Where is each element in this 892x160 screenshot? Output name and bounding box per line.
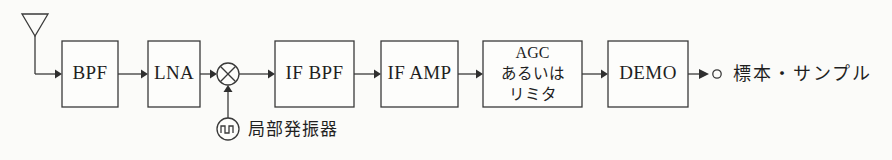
- block-if-bpf-label: IF BPF: [286, 62, 344, 83]
- wire-if-bpf-to-if-amp: [354, 70, 381, 79]
- block-agc-label-line1: AGC: [516, 44, 550, 61]
- block-if-amp-label: IF AMP: [387, 62, 451, 83]
- wire-bpf-to-lna: [118, 70, 148, 79]
- local-oscillator-label: 局部発振器: [248, 119, 338, 139]
- wire-mixer-to-if-bpf: [239, 70, 275, 79]
- block-lna-label: LNA: [154, 62, 194, 83]
- block-agc-label-line3: リミタ: [509, 86, 557, 104]
- mixer-symbol[interactable]: [217, 63, 239, 85]
- block-lna[interactable]: LNA: [148, 41, 200, 107]
- wire-if-amp-to-agc: [458, 70, 483, 79]
- block-demo[interactable]: DEMO: [608, 41, 688, 107]
- block-bpf[interactable]: BPF: [62, 41, 118, 107]
- antenna-symbol: [22, 14, 62, 79]
- block-agc-label-line2: あるいは: [501, 65, 565, 83]
- local-oscillator-symbol[interactable]: [217, 118, 239, 140]
- output-label: 標本・サンプル: [733, 63, 872, 84]
- block-if-amp[interactable]: IF AMP: [381, 41, 458, 107]
- receiver-block-diagram: BPF LNA: [0, 0, 892, 160]
- block-demo-label: DEMO: [619, 62, 677, 83]
- output-terminal[interactable]: [713, 70, 721, 78]
- wire-agc-to-demo: [582, 70, 608, 79]
- wire-lna-to-mixer: [200, 70, 217, 79]
- wire-oscillator-to-mixer: [224, 85, 233, 118]
- block-if-bpf[interactable]: IF BPF: [275, 41, 354, 107]
- block-diagram-canvas: BPF LNA: [0, 0, 892, 160]
- wire-demo-to-output: [688, 69, 709, 79]
- block-bpf-label: BPF: [72, 62, 107, 83]
- block-agc[interactable]: AGC あるいは リミタ: [483, 41, 582, 107]
